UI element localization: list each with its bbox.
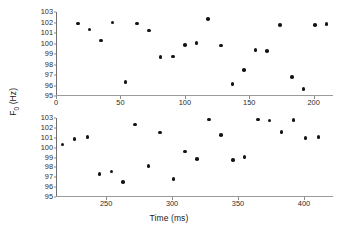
x-axis-tick-label: 200 [299,99,329,106]
x-axis-tick-mark [56,96,57,99]
y-axis-tick-mark [54,137,57,138]
y-axis-tick-label: 100 [31,40,53,47]
data-point [121,180,125,184]
x-axis-tick-mark [304,197,305,200]
data-point [86,135,90,139]
y-axis-tick-label: 102 [31,124,53,131]
y-axis-tick-label: 97 [31,174,53,181]
data-point [206,17,210,21]
y-axis-tick-mark [54,167,57,168]
data-point [111,21,115,25]
data-point [290,75,294,79]
y-axis-tick-mark [54,75,57,76]
y-axis-tick-mark [54,12,57,13]
x-axis-tick-label: 50 [105,99,135,106]
data-point [183,43,187,47]
data-point [88,28,92,32]
chart-panel-top: 9596979899100101102103050100150200 [56,12,333,96]
data-point [317,135,321,139]
x-axis-tick-label: 300 [157,200,187,207]
y-axis-tick-mark [54,22,57,23]
data-point [99,39,103,43]
data-point [231,158,235,162]
y-axis-tick-mark [54,147,57,148]
y-axis-tick-mark [54,64,57,65]
y-axis-tick-mark [54,127,57,128]
x-axis-tick-mark [172,197,173,200]
y-axis-title-symbol: F [8,111,18,116]
data-point [147,164,151,168]
y-axis-tick-mark [54,157,57,158]
x-axis-title: Time (ms) [0,213,338,223]
data-point [219,44,223,48]
data-point [242,68,246,72]
data-point [183,150,187,154]
y-axis-tick-label: 100 [31,144,53,151]
x-axis-tick-mark [249,96,250,99]
x-axis-tick-label: 150 [234,99,264,106]
data-point [304,136,308,140]
data-point [61,143,65,147]
data-point [195,157,199,161]
y-axis-tick-label: 99 [31,50,53,57]
y-axis-tick-label: 98 [31,61,53,68]
plot-area-top: 9596979899100101102103050100150200 [56,12,333,96]
x-axis-tick-mark [314,96,315,99]
data-point [172,177,176,181]
y-axis-tick-mark [54,187,57,188]
y-axis-tick-label: 99 [31,154,53,161]
y-axis-tick-mark [54,54,57,55]
x-axis-tick-mark [106,197,107,200]
y-axis-tick-mark [54,33,57,34]
data-point [268,119,272,123]
y-axis-tick-label: 101 [31,134,53,141]
y-axis-line-top [56,12,57,96]
data-point [98,172,102,176]
data-point [325,22,329,26]
y-axis-tick-label: 95 [31,193,53,200]
y-axis-tick-label: 96 [31,82,53,89]
x-axis-tick-mark [238,197,239,200]
x-axis-tick-label: 100 [170,99,200,106]
x-axis-tick-label: 400 [289,200,319,207]
x-axis-line-bottom [56,196,333,197]
x-axis-tick-mark [120,96,121,99]
y-axis-tick-label: 101 [31,29,53,36]
data-point [124,80,128,84]
data-point [256,118,260,122]
data-point [231,82,235,86]
chart-panel-bottom: 9596979899100101102103250300350400 [56,118,333,197]
x-axis-tick-label: 350 [223,200,253,207]
data-point [280,130,284,134]
data-point [147,29,151,33]
y-axis-tick-mark [54,177,57,178]
data-point [158,131,162,135]
data-point [254,48,258,52]
data-point [159,55,163,59]
y-axis-tick-label: 103 [31,8,53,15]
data-point [265,49,269,53]
data-point [171,55,175,59]
y-axis-title: F0 (Hz) [8,72,20,132]
data-point [302,87,306,91]
y-axis-tick-label: 98 [31,164,53,171]
data-point [133,123,137,127]
data-point [76,22,80,26]
y-axis-tick-mark [54,197,57,198]
data-point [243,155,247,159]
x-axis-line-top [56,95,333,96]
data-point [195,41,199,45]
data-point [278,23,282,27]
x-axis-tick-mark [185,96,186,99]
data-point [207,118,211,122]
y-axis-tick-mark [54,43,57,44]
x-axis-tick-label: 0 [41,99,71,106]
y-axis-title-subscript: 0 [13,107,20,111]
y-axis-tick-label: 103 [31,114,53,121]
y-axis-tick-label: 97 [31,71,53,78]
y-axis-tick-mark [54,118,57,119]
y-axis-tick-label: 96 [31,183,53,190]
scatter-figure: F0 (Hz) 95969798991001011021030501001502… [0,0,338,233]
data-point [73,137,77,141]
data-point [110,170,114,174]
